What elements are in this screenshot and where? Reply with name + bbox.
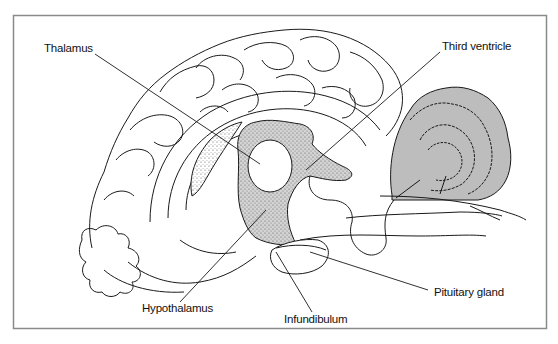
lateral-ventricle <box>191 122 242 196</box>
frontal-base <box>79 226 256 297</box>
label-third-ventricle: Third ventricle <box>442 40 511 52</box>
label-thalamus: Thalamus <box>44 42 93 54</box>
leader-hypothalamus <box>180 210 266 302</box>
leader-thalamus <box>95 54 260 164</box>
label-infundibulum: Infundibulum <box>284 313 347 325</box>
label-hypothalamus: Hypothalamus <box>142 302 213 314</box>
cerebellum <box>391 87 511 200</box>
label-pituitary-gland: Pituitary gland <box>434 286 504 298</box>
thalamus <box>248 140 292 192</box>
leader-pituitary <box>310 252 428 290</box>
